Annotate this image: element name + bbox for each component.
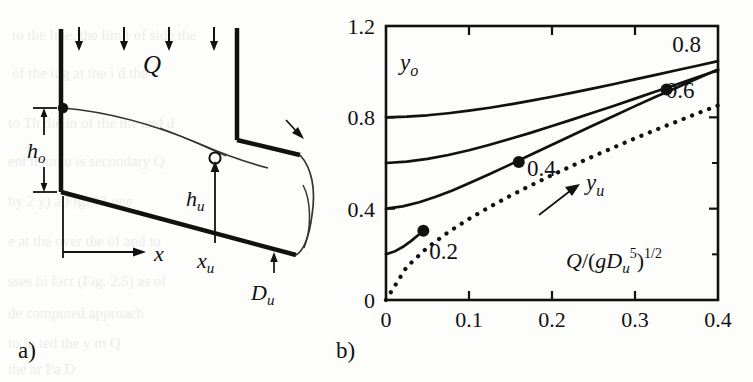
label-Q: Q (143, 51, 161, 78)
y-axis-label: yo (398, 50, 418, 79)
curve-label: 0.8 (672, 32, 701, 57)
y-tick-label: 1.2 (348, 14, 376, 39)
label-h-o: ho (27, 138, 46, 166)
curve-y-u-critical-line (386, 105, 718, 300)
data-point (417, 225, 429, 237)
x-tick-label: 0.1 (455, 307, 483, 332)
jet-outline-outer (296, 155, 314, 255)
point-label: 0.6 (666, 78, 695, 103)
label-x-u: xu (196, 248, 214, 276)
x-axis-label: Q/(gDu5)1/2 (566, 246, 662, 276)
yu-annotation-arrow-icon (539, 184, 580, 215)
figure-root: to the line, the limit of side the of th… (0, 0, 753, 382)
bleed-line: e at the over the of and to (8, 233, 161, 249)
label-x: x (153, 241, 164, 266)
y-tick-label: 0.4 (348, 197, 376, 222)
panel-a-label: a) (18, 338, 36, 363)
point-label: 0.4 (527, 156, 556, 181)
x-tick-label: 0.2 (538, 307, 566, 332)
yu-annotation-label: yu (584, 170, 604, 199)
label-D-u: Du (250, 280, 274, 308)
curve-0-2 (386, 231, 423, 255)
bleed-line: de computed approach (8, 305, 144, 321)
y-tick-label: 0.8 (348, 105, 376, 130)
x-tick-label: 0.4 (704, 307, 732, 332)
bleed-line: to Th the in of the the and d (8, 115, 175, 131)
label-h-u: hu (186, 186, 205, 214)
curve-labels: 0.20.40.60.8 (429, 32, 701, 264)
x-tick-label: 0 (381, 307, 392, 332)
point-label: 0.2 (429, 239, 458, 264)
outlet-soffit (237, 140, 300, 155)
bleed-line: the ar Pa D (8, 361, 75, 377)
x-tick-label: 0.3 (621, 307, 649, 332)
y-tick-label: 0 (364, 288, 375, 313)
panel-b-label: b) (336, 338, 355, 363)
bleed-line: of the ing at the i d the (12, 65, 148, 81)
upstream-surface-point (58, 103, 68, 113)
panel-b-chart: 00.10.20.30.400.40.81.2 0.20.40.60.8 yo … (336, 14, 732, 363)
bleed-line: sses hi fact (Fig. 2.5) as of (8, 273, 166, 290)
data-point (513, 156, 525, 168)
inflow-arrow-icon (210, 27, 218, 51)
